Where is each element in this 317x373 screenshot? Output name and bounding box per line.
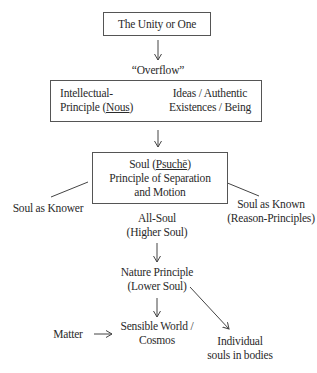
- soul-knower-label: Soul as Knower: [8, 201, 88, 215]
- soul-known-line2: (Reason-Principles): [225, 211, 317, 225]
- intellect-line1: Intellectual-: [60, 86, 140, 100]
- intellect-line2-post: ): [130, 101, 134, 113]
- soul-line3: and Motion: [92, 185, 228, 199]
- soul-known-label: Soul as Known (Reason-Principles): [225, 197, 317, 225]
- ideas-label: Ideas / Authentic Existences / Being: [160, 86, 260, 114]
- soul-line1: Soul (Psuchē): [92, 157, 228, 171]
- ideas-line1: Ideas / Authentic: [160, 86, 260, 100]
- nous-term: Nous: [106, 101, 129, 113]
- all-soul-line1: All-Soul: [107, 211, 207, 225]
- soul-line2: Principle of Separation: [92, 171, 228, 185]
- psuche-term: Psuchē: [156, 158, 187, 170]
- intellect-line2: Principle (Nous): [60, 100, 140, 114]
- unity-label: The Unity or One: [103, 17, 211, 31]
- nature-line1: Nature Principle: [107, 265, 207, 279]
- ideas-line2: Existences / Being: [160, 100, 260, 114]
- line-soul-to-knower: [51, 182, 88, 197]
- intellect-line2-pre: Principle (: [60, 101, 106, 113]
- individual-line2: souls in bodies: [200, 348, 280, 362]
- line-soul-to-known: [225, 182, 259, 196]
- sensible-line1: Sensible World /: [112, 319, 202, 333]
- sensible-label: Sensible World / Cosmos: [112, 319, 202, 347]
- individual-label: Individual souls in bodies: [200, 334, 280, 362]
- soul-line1-pre: Soul (: [129, 158, 156, 170]
- individual-line1: Individual: [200, 334, 280, 348]
- intellect-label: Intellectual- Principle (Nous): [60, 86, 140, 114]
- sensible-line2: Cosmos: [112, 333, 202, 347]
- all-soul-line2: (Higher Soul): [107, 225, 207, 239]
- matter-label: Matter: [48, 327, 88, 341]
- nature-line2: (Lower Soul): [107, 279, 207, 293]
- soul-line1-post: ): [187, 158, 191, 170]
- nature-label: Nature Principle (Lower Soul): [107, 265, 207, 293]
- overflow-label: “Overflow”: [110, 63, 206, 77]
- all-soul-label: All-Soul (Higher Soul): [107, 211, 207, 239]
- soul-label: Soul (Psuchē) Principle of Separation an…: [92, 157, 228, 199]
- soul-known-line1: Soul as Known: [225, 197, 317, 211]
